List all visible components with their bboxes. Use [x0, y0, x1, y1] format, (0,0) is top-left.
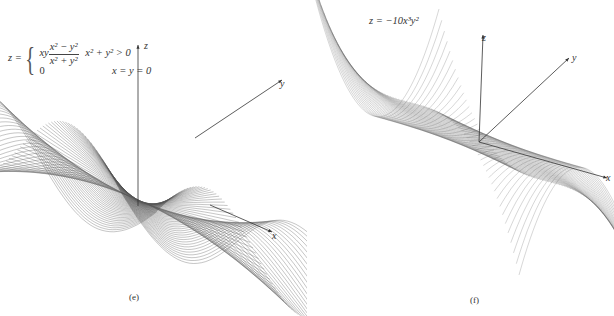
caption-e: (e) — [129, 292, 139, 302]
case1-fraction: x² − y²x² + y² — [49, 42, 79, 66]
surface-plot-f — [307, 0, 614, 316]
z-axis-label: z — [482, 32, 486, 43]
x-axis-label: x — [606, 172, 610, 183]
equation-e: z = { xyx² − y²x² + y² x² + y² > 0 0 x =… — [8, 40, 151, 78]
figure-panel-e: z = { xyx² − y²x² + y² x² + y² > 0 0 x =… — [0, 0, 307, 316]
case1-prefix: xy — [39, 47, 48, 58]
equation-lhs: z = — [8, 52, 22, 63]
y-axis-label: y — [572, 52, 576, 63]
y-axis-label: y — [280, 78, 284, 89]
equation-cases: xyx² − y²x² + y² x² + y² > 0 0 x = y = 0 — [39, 42, 151, 76]
equation-f: z = −10x³y² — [369, 15, 419, 26]
caption-f: (f) — [470, 295, 479, 305]
left-brace-icon: { — [26, 40, 36, 78]
case2-condition: x = y = 0 — [112, 65, 151, 76]
case1-condition: x² + y² > 0 — [85, 47, 131, 58]
figure-panel-f: z = −10x³y² z y x (f) — [307, 0, 614, 316]
case2-value: 0 — [39, 65, 109, 76]
fraction-numerator: x² − y² — [49, 42, 79, 55]
x-axis-label: x — [272, 230, 276, 241]
z-axis-label: z — [144, 40, 148, 51]
